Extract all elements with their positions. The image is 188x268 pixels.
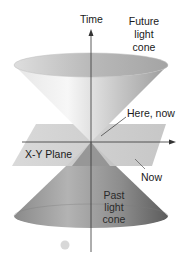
here-now-label: Here, now (127, 107, 175, 119)
svg-text:light: light (134, 28, 153, 40)
past-cone-label: Past light cone (103, 189, 126, 225)
svg-text:cone: cone (103, 213, 126, 225)
svg-text:cone: cone (133, 41, 156, 53)
smudge-mark (61, 241, 70, 250)
svg-text:Past: Past (103, 189, 124, 201)
xy-plane-label: X-Y Plane (25, 148, 72, 160)
svg-text:Future: Future (129, 15, 160, 27)
svg-text:light: light (104, 201, 123, 213)
time-label: Time (80, 13, 103, 25)
now-label: Now (141, 171, 162, 183)
future-cone-label: Future light cone (129, 15, 160, 53)
light-cone-diagram: Time Future light cone Here, now X-Y Pla… (0, 0, 188, 268)
